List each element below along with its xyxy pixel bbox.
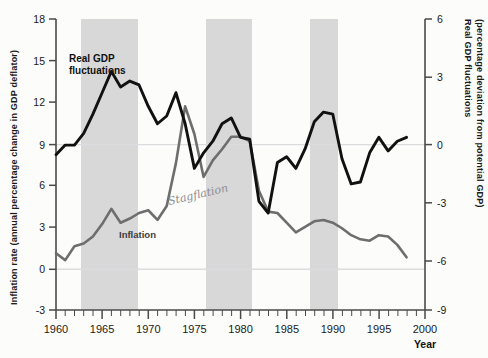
gdp-series-label-line2: fluctuations — [69, 65, 126, 76]
right-tick-label-minus9: -9 — [437, 304, 446, 316]
left-tick-label-12: 12 — [33, 96, 45, 108]
x-tick-label-1990: 1990 — [321, 323, 345, 335]
x-tick-label-1995: 1995 — [367, 323, 391, 335]
right-tick-label-minus3: -3 — [437, 197, 446, 209]
left-tick-label-18: 18 — [33, 13, 45, 25]
inflation-series-label: Inflation — [119, 229, 156, 240]
left-axis-title: Inflation rate (annual percentage change… — [9, 50, 19, 305]
right-axis-title-line1: Real GDP fluctuations — [463, 19, 473, 118]
business-cycle-chart: 18 15 12 9 6 3 0 -3 Inflation rate (annu… — [0, 0, 488, 358]
x-tick-label-1985: 1985 — [275, 323, 299, 335]
shaded-band-3 — [310, 19, 338, 310]
left-tick-label-3: 3 — [39, 221, 45, 233]
shaded-band-2 — [206, 19, 252, 310]
left-tick-label-0: 0 — [39, 263, 45, 275]
chart-figure: 18 15 12 9 6 3 0 -3 Inflation rate (annu… — [0, 0, 488, 358]
left-tick-label-15: 15 — [33, 55, 45, 67]
x-tick-label-1970: 1970 — [136, 323, 160, 335]
x-tick-label-2000: 2000 — [413, 323, 437, 335]
right-tick-label-3: 3 — [437, 71, 443, 83]
x-tick-label-1965: 1965 — [90, 323, 114, 335]
gdp-series-label-line1: Real GDP — [69, 53, 115, 64]
x-tick-label-1960: 1960 — [44, 323, 68, 335]
x-tick-label-1975: 1975 — [182, 323, 206, 335]
x-tick-label-1980: 1980 — [228, 323, 252, 335]
x-axis-label: Year — [414, 338, 436, 350]
right-tick-label-6: 6 — [437, 13, 443, 25]
right-tick-label-0: 0 — [437, 139, 443, 151]
left-tick-label-minus3: -3 — [36, 304, 45, 316]
left-tick-label-9: 9 — [39, 139, 45, 151]
left-tick-label-6: 6 — [39, 179, 45, 191]
right-axis-title-line2: (percentage deviation from potential GDP… — [475, 19, 485, 208]
right-tick-label-minus6: -6 — [437, 255, 446, 267]
